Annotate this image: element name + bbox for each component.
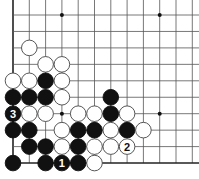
- white-stone-disc: [103, 122, 119, 138]
- white-stone[interactable]: [103, 139, 119, 155]
- black-stone[interactable]: [22, 139, 38, 155]
- white-stone[interactable]: [38, 106, 54, 122]
- move-number-label: 2: [124, 141, 130, 153]
- white-stone[interactable]: [87, 106, 103, 122]
- white-stone-disc: [38, 106, 54, 122]
- white-stone[interactable]: [70, 106, 86, 122]
- black-stone[interactable]: [38, 89, 54, 105]
- white-stone-disc: [70, 106, 86, 122]
- white-stone-disc: [5, 73, 21, 89]
- black-stone[interactable]: 3: [5, 106, 21, 122]
- star-point: [158, 112, 162, 116]
- white-stone[interactable]: [5, 73, 21, 89]
- white-stone-disc: [103, 139, 119, 155]
- black-stone[interactable]: [70, 139, 86, 155]
- black-stone-disc: [22, 139, 38, 155]
- black-stone[interactable]: [5, 122, 21, 138]
- white-stone-disc: [22, 73, 38, 89]
- black-stone-disc: [103, 106, 119, 122]
- black-stone[interactable]: [38, 139, 54, 155]
- black-stone-disc: [70, 155, 86, 171]
- white-stone-disc: [87, 155, 103, 171]
- white-stone[interactable]: [54, 57, 70, 73]
- white-stone-disc: [136, 122, 152, 138]
- white-stone-disc: [54, 73, 70, 89]
- move-number-label: 1: [59, 157, 65, 169]
- move-number-label: 3: [10, 108, 16, 120]
- black-stone[interactable]: 1: [54, 155, 70, 171]
- black-stone[interactable]: [70, 155, 86, 171]
- black-stone-disc: [38, 139, 54, 155]
- black-stone[interactable]: [5, 89, 21, 105]
- black-stone[interactable]: [119, 122, 135, 138]
- white-stone[interactable]: [22, 73, 38, 89]
- black-stone[interactable]: [87, 122, 103, 138]
- black-stone[interactable]: [5, 155, 21, 171]
- black-stone[interactable]: [103, 89, 119, 105]
- black-stone[interactable]: [22, 89, 38, 105]
- white-stone[interactable]: [54, 122, 70, 138]
- white-stone-disc: [54, 122, 70, 138]
- black-stone-disc: [22, 122, 38, 138]
- black-stone-disc: [22, 89, 38, 105]
- white-stone-disc: [22, 106, 38, 122]
- star-point: [60, 112, 64, 116]
- white-stone[interactable]: [54, 139, 70, 155]
- black-stone-disc: [70, 139, 86, 155]
- white-stone-disc: [22, 40, 38, 56]
- black-stone-disc: [5, 155, 21, 171]
- white-stone[interactable]: [87, 155, 103, 171]
- white-stone-disc: [119, 106, 135, 122]
- black-stone-disc: [38, 89, 54, 105]
- white-stone-disc: [87, 139, 103, 155]
- star-point: [60, 13, 64, 17]
- black-stone-disc: [5, 89, 21, 105]
- go-board: 321: [0, 0, 199, 179]
- white-stone[interactable]: [87, 139, 103, 155]
- white-stone-disc: [54, 57, 70, 73]
- white-stone[interactable]: [136, 122, 152, 138]
- black-stone[interactable]: [38, 155, 54, 171]
- black-stone-disc: [38, 155, 54, 171]
- black-stone-disc: [87, 122, 103, 138]
- white-stone-disc: [87, 106, 103, 122]
- black-stone-disc: [103, 89, 119, 105]
- white-stone[interactable]: [22, 106, 38, 122]
- white-stone-disc: [54, 139, 70, 155]
- white-stone[interactable]: [38, 57, 54, 73]
- white-stone[interactable]: [54, 73, 70, 89]
- white-stone[interactable]: [103, 122, 119, 138]
- black-stone[interactable]: [38, 73, 54, 89]
- black-stone[interactable]: [70, 122, 86, 138]
- white-stone[interactable]: 2: [119, 139, 135, 155]
- black-stone[interactable]: [22, 122, 38, 138]
- black-stone-disc: [119, 122, 135, 138]
- diagram-caption-fragment: [14, 172, 54, 178]
- white-stone-disc: [54, 89, 70, 105]
- black-stone-disc: [5, 122, 21, 138]
- black-stone-disc: [38, 73, 54, 89]
- black-stone[interactable]: [103, 106, 119, 122]
- star-point: [158, 13, 162, 17]
- white-stone[interactable]: [54, 89, 70, 105]
- white-stone-disc: [38, 57, 54, 73]
- black-stone-disc: [70, 122, 86, 138]
- white-stone[interactable]: [22, 40, 38, 56]
- white-stone[interactable]: [119, 106, 135, 122]
